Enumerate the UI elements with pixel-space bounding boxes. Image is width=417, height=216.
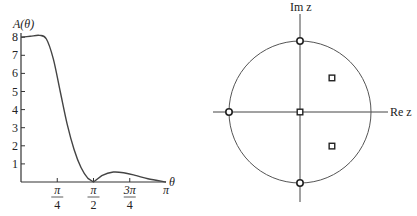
y-tick-label: 1 xyxy=(12,157,18,171)
y-tick-label: 3 xyxy=(12,121,18,135)
x-tick-denominator: 4 xyxy=(127,198,133,212)
amplitude-plot: A(θ) θ 12345678 π4π23π4π xyxy=(12,17,175,212)
y-tick-label: 6 xyxy=(12,66,18,80)
y-tick-label: 5 xyxy=(12,85,18,99)
im-axis-label: Im z xyxy=(290,0,312,14)
zero-marker xyxy=(226,109,232,115)
y-tick-label: 4 xyxy=(12,103,18,117)
x-tick-denominator: 4 xyxy=(54,198,60,212)
x-tick-denominator: 2 xyxy=(91,198,97,212)
y-ticks: 12345678 xyxy=(12,30,25,171)
figure: A(θ) θ 12345678 π4π23π4π Im z Re z xyxy=(0,0,417,216)
y-tick-label: 8 xyxy=(12,30,18,44)
y-tick-label: 2 xyxy=(12,139,18,153)
y-axis-label: A(θ) xyxy=(12,17,34,31)
x-tick-numerator: π xyxy=(54,183,61,197)
pole-marker xyxy=(297,109,303,115)
pole-marker xyxy=(329,75,335,81)
amplitude-curve xyxy=(21,35,166,182)
x-tick-numerator: π xyxy=(163,183,170,197)
pole-zero-plot: Im z Re z xyxy=(213,0,412,202)
pole-marker xyxy=(329,143,335,149)
zero-marker xyxy=(297,38,303,44)
x-axis-label: θ xyxy=(169,175,175,189)
x-tick-numerator: 3π xyxy=(123,183,137,197)
zero-marker xyxy=(297,180,303,186)
y-tick-label: 7 xyxy=(12,48,18,62)
re-axis-label: Re z xyxy=(390,105,412,119)
x-ticks: π4π23π4π xyxy=(51,178,170,212)
x-tick-numerator: π xyxy=(90,183,97,197)
